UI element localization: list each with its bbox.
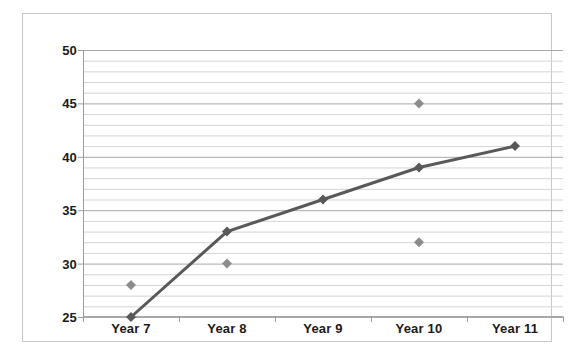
scatter-point-marker: [222, 259, 232, 269]
x-tick-label-year-8: Year 8: [179, 322, 275, 342]
y-tick-label: 25: [43, 311, 77, 324]
plot-area: [83, 50, 563, 317]
x-tick-label-year-7: Year 7: [83, 322, 179, 342]
scatter-point-marker: [126, 280, 136, 290]
scatter-point-marker: [414, 98, 424, 108]
x-tick-label-year-9: Year 9: [275, 322, 371, 342]
x-tick-label-year-11: Year 11: [467, 322, 563, 342]
chart-frame: 253035404550 Year 7Year 8Year 9Year 10Ye…: [22, 13, 552, 342]
series-layer: [83, 50, 563, 317]
data-point-marker: [414, 162, 424, 172]
x-axis-labels: Year 7Year 8Year 9Year 10Year 11: [83, 322, 563, 342]
x-tick-label-year-10: Year 10: [371, 322, 467, 342]
y-tick-label: 50: [43, 44, 77, 57]
data-point-marker: [510, 141, 520, 151]
scatter-point-marker: [414, 237, 424, 247]
y-tick-label: 45: [43, 97, 77, 110]
y-tick-label: 40: [43, 151, 77, 164]
data-point-marker: [318, 195, 328, 205]
y-tick-label: 35: [43, 204, 77, 217]
y-tick-label: 30: [43, 258, 77, 271]
chart-root: 253035404550 Year 7Year 8Year 9Year 10Ye…: [0, 0, 576, 357]
y-axis-labels: 253035404550: [37, 50, 77, 317]
data-line: [131, 146, 515, 317]
